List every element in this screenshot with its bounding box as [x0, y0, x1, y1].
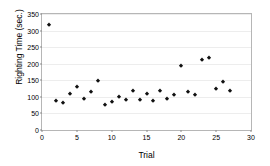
x-tick-label: 25: [212, 134, 220, 141]
data-point: [130, 89, 135, 94]
y-tick-label: 300: [27, 27, 39, 34]
x-axis-title: Trial: [41, 150, 252, 160]
data-point: [95, 78, 100, 83]
x-tick-label: 10: [108, 134, 116, 141]
y-tick-mark: [40, 30, 42, 31]
data-point: [200, 58, 205, 63]
y-tick-label: 150: [27, 77, 39, 84]
data-point: [81, 96, 86, 101]
data-point: [144, 91, 149, 96]
y-tick-mark: [40, 63, 42, 64]
data-point: [137, 97, 142, 102]
data-point: [54, 98, 59, 103]
y-tick-label: 250: [27, 44, 39, 51]
y-tick-mark: [40, 80, 42, 81]
y-tick-label: 50: [31, 110, 39, 117]
y-axis-title: Righting Time (sec.): [14, 0, 24, 102]
x-tick-mark: [146, 130, 147, 132]
data-point: [47, 22, 52, 27]
y-tick-mark: [40, 96, 42, 97]
plot-area: 050100150200250300350 051015202530: [41, 13, 252, 131]
x-tick-label: 5: [75, 134, 79, 141]
x-tick-mark: [216, 130, 217, 132]
y-tick-mark: [40, 47, 42, 48]
data-point: [214, 86, 219, 91]
y-tick-label: 200: [27, 60, 39, 67]
y-tick-mark: [40, 14, 42, 15]
x-tick-mark: [111, 130, 112, 132]
data-point: [88, 90, 93, 95]
x-tick-mark: [76, 130, 77, 132]
gridline: [42, 97, 251, 98]
gridline: [42, 14, 251, 15]
data-point: [116, 94, 121, 99]
data-point: [102, 103, 107, 108]
y-tick-label: 0: [35, 127, 39, 134]
data-point: [74, 85, 79, 90]
y-tick-mark: [40, 113, 42, 114]
gridline: [42, 31, 251, 32]
data-point: [228, 88, 233, 93]
data-point: [158, 88, 163, 93]
x-tick-mark: [251, 130, 252, 132]
gridline: [42, 113, 251, 114]
scatter-chart: Righting Time (sec.) 0501001502002503003…: [0, 0, 270, 166]
data-point: [151, 98, 156, 103]
x-tick-label: 0: [40, 134, 44, 141]
data-point: [109, 100, 114, 105]
x-tick-label: 20: [177, 134, 185, 141]
x-tick-label: 30: [247, 134, 255, 141]
y-tick-label: 350: [27, 11, 39, 18]
x-tick-mark: [181, 130, 182, 132]
data-point: [207, 55, 212, 60]
gridline: [42, 64, 251, 65]
data-point: [60, 101, 65, 106]
gridline: [42, 47, 251, 48]
x-tick-label: 15: [143, 134, 151, 141]
data-point: [186, 89, 191, 94]
x-tick-mark: [42, 130, 43, 132]
y-tick-label: 100: [27, 93, 39, 100]
